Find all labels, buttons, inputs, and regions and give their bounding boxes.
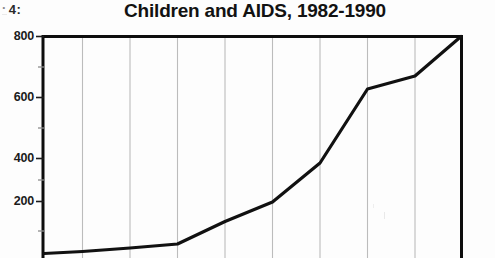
data-series-line xyxy=(44,37,461,254)
vertical-gridlines xyxy=(83,37,416,258)
y-axis-label-200: 200 xyxy=(0,194,34,208)
figure-root: ·4: Children and AIDS, 1982-1990 xyxy=(0,0,495,258)
y-axis-label-400: 400 xyxy=(0,151,34,165)
chart-plot-area: 800 600 400 200 xyxy=(0,0,495,258)
y-axis-label-600: 600 xyxy=(0,90,34,104)
y-axis-label-800: 800 xyxy=(0,29,34,43)
line-chart-svg xyxy=(0,0,495,258)
